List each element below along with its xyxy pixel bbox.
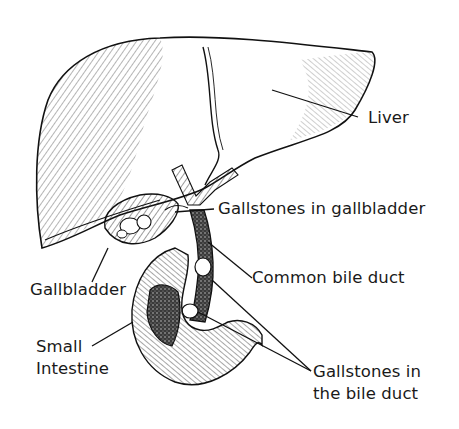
label-gallstones-in-gallbladder: Gallstones in gallbladder [218,199,425,219]
label-small-intestine-line1: Small [36,337,82,357]
label-gallstones-in-bile-duct-line1: Gallstones in [313,362,421,382]
label-common-bile-duct: Common bile duct [252,268,405,288]
label-gallbladder: Gallbladder [30,280,126,300]
label-gallstones-in-bile-duct-line2: the bile duct [313,384,418,404]
label-liver: Liver [368,108,409,128]
label-small-intestine-line2: Intestine [36,359,109,379]
